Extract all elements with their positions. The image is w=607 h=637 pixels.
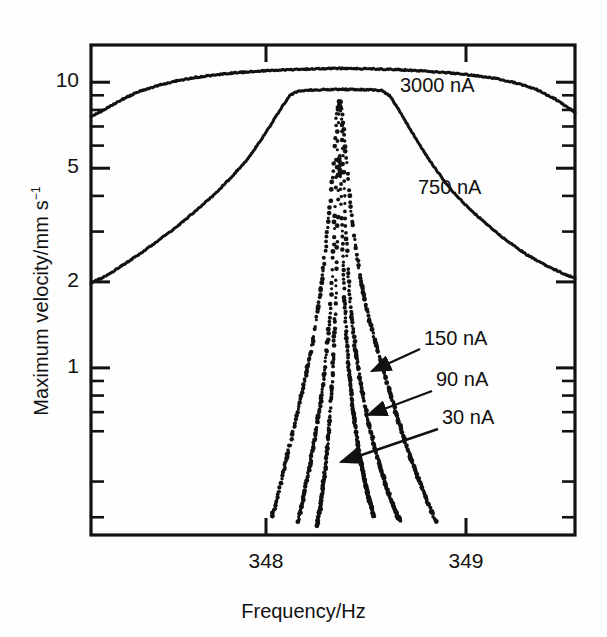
label-90na: 90 nA [436, 368, 488, 391]
series-point-150na [352, 234, 356, 238]
series-point-30na [328, 410, 331, 413]
series-point-150na [315, 318, 318, 321]
series-point-150na [384, 376, 388, 380]
series-point-90na [343, 187, 346, 190]
series-point-90na [322, 371, 326, 375]
series-point-150na [342, 133, 346, 137]
series-point-30na [334, 296, 337, 299]
series-point-90na [346, 275, 349, 278]
series-point-90na [337, 112, 341, 116]
series-point-150na [355, 253, 359, 257]
series-point-90na [348, 300, 351, 303]
series-point-90na [303, 488, 306, 491]
series-point-150na [289, 444, 293, 448]
series-point-90na [347, 289, 351, 293]
series-point-90na [329, 292, 334, 297]
y-tick-label-2: 2 [35, 268, 79, 292]
series-point-150na [340, 112, 344, 116]
series-point-90na [305, 478, 309, 482]
series-point-150na [328, 198, 333, 203]
series-point-90na [335, 129, 340, 134]
series-point-150na [327, 216, 330, 219]
y-tick-label-5: 5 [35, 154, 79, 178]
series-point-150na [312, 335, 315, 338]
series-point-150na [314, 315, 318, 319]
series-point-150na [344, 156, 348, 160]
series-point-150na [321, 273, 325, 277]
series-point-30na [335, 260, 339, 264]
series-point-30na [336, 197, 340, 201]
series-point-30na [327, 419, 332, 424]
series-point-90na [328, 316, 332, 320]
series-point-90na [331, 256, 335, 260]
series-point-150na [332, 144, 337, 149]
series-point-150na [370, 327, 375, 332]
x-axis-title: Frequency/Hz [0, 600, 607, 623]
series-point-150na [322, 256, 326, 260]
series-point-150na [350, 213, 354, 217]
series-point-150na [324, 249, 328, 253]
series-point-150na [348, 200, 352, 204]
series-point-150na [384, 380, 389, 385]
series-point-90na [326, 327, 331, 332]
series-point-150na [324, 234, 328, 238]
series-point-150na [332, 169, 336, 173]
series-point-150na [329, 187, 334, 192]
series-point-150na [356, 259, 360, 263]
series-point-150na [349, 210, 352, 213]
series-point-150na [307, 356, 311, 360]
series-point-150na [362, 297, 367, 302]
series-point-30na [323, 465, 328, 470]
series-point-30na [335, 291, 338, 294]
series-point-90na [322, 382, 325, 385]
series-point-90na [348, 284, 352, 288]
series-point-90na [352, 343, 357, 348]
series-point-30na [349, 392, 354, 397]
series-point-30na [346, 349, 350, 353]
series-point-30na [334, 279, 337, 282]
series-point-30na [340, 195, 343, 198]
series-point-90na [324, 356, 327, 359]
series-point-90na [340, 129, 344, 133]
series-point-150na [326, 226, 329, 229]
series-point-150na [290, 437, 294, 441]
series-point-150na [324, 240, 328, 244]
series-point-90na [349, 305, 353, 309]
series-point-30na [334, 284, 337, 287]
series-point-90na [342, 179, 346, 183]
series-point-150na [329, 180, 334, 185]
series-point-150na [318, 293, 323, 298]
series-point-30na [343, 302, 347, 306]
series-point-30na [339, 175, 342, 178]
series-point-150na [326, 219, 331, 224]
series-point-150na [353, 238, 356, 241]
series-point-90na [332, 220, 337, 225]
series-point-30na [345, 340, 349, 344]
series-point-90na [315, 426, 318, 429]
series-point-30na [339, 182, 343, 186]
series-point-90na [328, 323, 332, 327]
series-point-30na [334, 312, 338, 316]
series-point-150na [334, 117, 337, 120]
series-point-150na [331, 176, 335, 180]
series-point-150na [319, 286, 323, 290]
series-point-150na [325, 230, 329, 234]
series-point-30na [331, 371, 335, 375]
series-point-90na [398, 519, 402, 523]
series-point-30na [331, 352, 336, 357]
series-point-150na [346, 177, 350, 181]
series-point-90na [345, 248, 350, 253]
series-point-90na [346, 267, 350, 271]
series-point-90na [336, 148, 339, 151]
series-point-150na [372, 331, 375, 334]
series-point-90na [339, 109, 342, 112]
series-point-150na [366, 314, 370, 318]
series-point-90na [343, 202, 346, 205]
series-point-150na [351, 223, 355, 227]
series-point-150na [346, 172, 350, 176]
series-point-90na [329, 281, 333, 285]
plot-frame [91, 45, 575, 535]
series-point-30na [370, 507, 374, 511]
series-point-30na [332, 343, 337, 348]
series-point-30na [344, 332, 348, 336]
